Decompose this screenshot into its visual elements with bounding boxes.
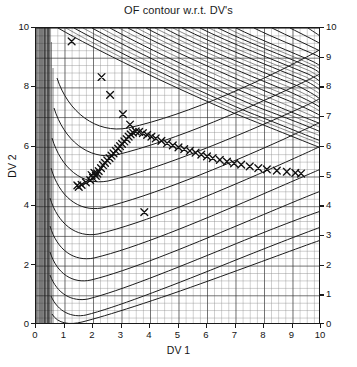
y-tick-mark: [31, 27, 35, 28]
x-tick-label-9: 9: [280, 329, 304, 340]
y2-tick-mark: [320, 146, 324, 147]
y2-tick-mark: [320, 235, 324, 236]
x-tick-mark: [121, 324, 122, 328]
y-tick-mark: [31, 205, 35, 206]
x-tick-mark: [35, 324, 36, 328]
y2-tick-label-7: 7: [326, 110, 350, 121]
x-tick-mark: [149, 324, 150, 328]
y-tick-label-0: 0: [5, 318, 29, 329]
page-title: OF contour w.r.t. DV's: [0, 4, 357, 16]
y2-tick-label-8: 8: [326, 80, 350, 91]
y2-tick-mark: [320, 86, 324, 87]
y-axis-label: DV 2: [6, 136, 18, 196]
x-tick-mark: [292, 324, 293, 328]
x-tick-label-7: 7: [223, 329, 247, 340]
y2-tick-mark: [320, 116, 324, 117]
x-tick-mark: [320, 324, 321, 328]
x-tick-mark: [178, 324, 179, 328]
y-tick-mark: [31, 146, 35, 147]
y-tick-label-2: 2: [5, 259, 29, 270]
plot-canvas: [36, 28, 320, 324]
x-tick-mark: [92, 324, 93, 328]
y2-tick-label-4: 4: [326, 199, 350, 210]
y2-tick-mark: [320, 265, 324, 266]
y-tick-label-4: 4: [5, 199, 29, 210]
y2-tick-label-5: 5: [326, 169, 350, 180]
y-tick-mark: [31, 264, 35, 265]
contour-plot-figure: OF contour w.r.t. DV's: [0, 0, 357, 367]
y2-tick-label-10: 10: [326, 21, 350, 32]
x-tick-label-4: 4: [137, 329, 161, 340]
plot-area: [35, 27, 320, 324]
x-tick-mark: [64, 324, 65, 328]
y-tick-label-8: 8: [5, 80, 29, 91]
y2-tick-mark: [320, 57, 324, 58]
y2-tick-label-6: 6: [326, 140, 350, 151]
x-axis-label: DV 1: [0, 344, 357, 356]
y2-tick-mark: [320, 176, 324, 177]
x-tick-label-5: 5: [166, 329, 190, 340]
x-tick-label-10: 10: [308, 329, 332, 340]
y2-tick-label-1: 1: [326, 288, 350, 299]
x-tick-mark: [263, 324, 264, 328]
y2-tick-label-3: 3: [326, 229, 350, 240]
x-tick-label-2: 2: [80, 329, 104, 340]
y2-tick-label-0: 0: [326, 318, 350, 329]
x-tick-label-1: 1: [52, 329, 76, 340]
y2-tick-mark: [320, 205, 324, 206]
x-tick-mark: [206, 324, 207, 328]
y2-tick-mark: [320, 27, 324, 28]
y-tick-mark: [31, 86, 35, 87]
x-tick-label-0: 0: [23, 329, 47, 340]
x-tick-label-8: 8: [251, 329, 275, 340]
y2-tick-label-9: 9: [326, 51, 350, 62]
x-tick-label-3: 3: [109, 329, 133, 340]
x-tick-label-6: 6: [194, 329, 218, 340]
y-tick-label-10: 10: [5, 21, 29, 32]
y2-tick-label-2: 2: [326, 259, 350, 270]
x-tick-mark: [235, 324, 236, 328]
y2-tick-mark: [320, 294, 324, 295]
